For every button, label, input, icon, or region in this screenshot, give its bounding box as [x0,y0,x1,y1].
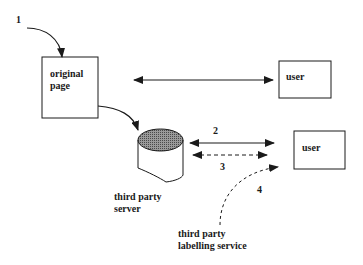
arrow-page-to-server [98,106,138,130]
step-3-label: 3 [220,161,225,173]
third-party-server-icon [138,129,183,182]
labelling-service-label: third party labelling service [178,228,247,252]
arrow-step-1 [27,28,62,57]
step-4-label: 4 [257,184,262,196]
third-party-server-label-line1: third party [114,191,162,203]
third-party-server-label-line2: server [114,203,162,215]
arrow-step-4 [220,167,278,225]
labelling-service-label-line2: labelling service [178,240,247,252]
original-page-label-line1: original [50,68,83,80]
diagram-canvas [0,0,363,265]
user-bottom-label: user [302,142,320,154]
original-page-label-line2: page [50,80,83,92]
user-top-label: user [286,71,304,83]
step-2-label: 2 [213,125,218,137]
original-page-label: original page [50,68,83,92]
labelling-service-label-line1: third party [178,228,247,240]
third-party-server-label: third party server [114,191,162,215]
step-1-label: 1 [16,14,21,26]
